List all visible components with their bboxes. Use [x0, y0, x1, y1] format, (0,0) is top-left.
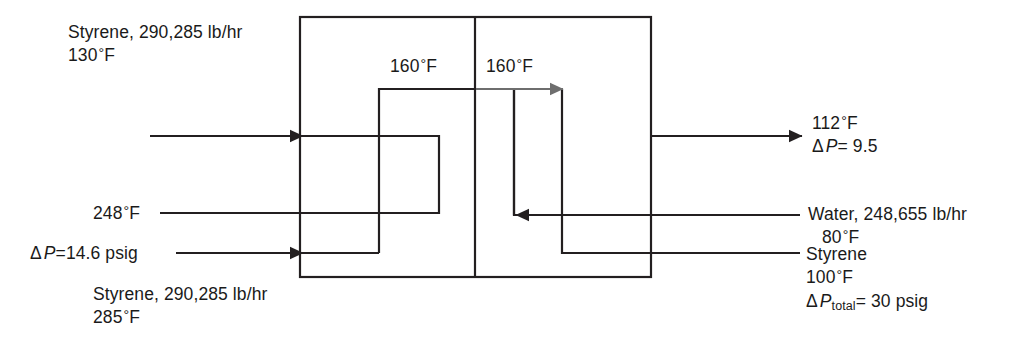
label-inner-right-unit: F [522, 56, 533, 76]
label-inner-right-value: 160 [486, 56, 516, 76]
label-top-right-line2: ΔP= 9.5 [812, 135, 878, 158]
label-styrene-right-var: P [820, 291, 832, 311]
label-bottom-left-line2: 285°F [93, 306, 267, 329]
label-styrene-right-eq: = 30 psig [856, 291, 928, 311]
left-chamber-pipe-lower [300, 136, 439, 213]
label-top-left-stream: Styrene, 290,285 lb/hr 130°F [68, 21, 242, 68]
label-styrene-right-temp-unit: F [842, 267, 853, 287]
label-bottom-left-line1: Styrene, 290,285 lb/hr [93, 283, 267, 306]
label-top-right-temp-unit: F [847, 113, 858, 133]
label-water-line1: Water, 248,655 lb/hr [808, 203, 967, 226]
label-top-left-temp-unit: F [104, 45, 115, 65]
label-mid-left-unit: F [129, 203, 140, 223]
label-inner-left-unit: F [426, 56, 437, 76]
label-styrene-right-line3: ΔPtotal= 30 psig [806, 290, 928, 313]
label-inner-left-temp: 160°F [390, 55, 437, 78]
label-top-right-line1: 112°F [812, 112, 878, 135]
label-styrene-right-line1: Styrene [806, 243, 928, 266]
delta-symbol-icon: Δ [812, 136, 826, 156]
label-top-right-var: P [826, 136, 838, 156]
left-chamber-pipe-upper [379, 89, 475, 253]
label-mid-left-value: 248 [93, 203, 123, 223]
label-styrene-right-stream: Styrene 100°F ΔPtotal= 30 psig [806, 243, 928, 313]
degree-icon: ° [836, 267, 843, 283]
label-top-left-line2: 130°F [68, 44, 242, 67]
label-styrene-right-temp-value: 100 [806, 267, 836, 287]
label-bottom-left-temp-value: 285 [93, 307, 123, 327]
degree-icon: ° [516, 56, 523, 72]
degree-icon: ° [123, 307, 130, 323]
delta-symbol-icon: Δ [806, 291, 820, 311]
label-styrene-right-line2: 100°F [806, 266, 928, 289]
degree-icon: ° [123, 203, 130, 219]
degree-icon: ° [420, 56, 427, 72]
degree-icon: ° [842, 227, 849, 243]
label-lower-left-var: P [44, 243, 56, 263]
label-inner-left-value: 160 [390, 56, 420, 76]
label-inner-right-temp: 160°F [486, 55, 533, 78]
degree-icon: ° [98, 45, 105, 61]
right-chamber-pipe-upper [562, 89, 800, 253]
label-bottom-left-temp-unit: F [129, 307, 140, 327]
label-top-right-temp-value: 112 [812, 113, 840, 133]
label-top-right-outlet: 112°F ΔP= 9.5 [812, 112, 878, 159]
label-bottom-left-stream: Styrene, 290,285 lb/hr 285°F [93, 283, 267, 330]
label-top-left-temp-value: 130 [68, 45, 98, 65]
process-flow-diagram: Styrene, 290,285 lb/hr 130°F 160°F 160°F… [0, 0, 1028, 350]
right-chamber-pipe-lower [514, 89, 800, 215]
label-top-left-line1: Styrene, 290,285 lb/hr [68, 21, 242, 44]
label-mid-left-temp: 248°F [93, 202, 140, 225]
delta-symbol-icon: Δ [30, 243, 44, 263]
degree-icon: ° [840, 113, 847, 129]
label-styrene-right-subscript: total [832, 299, 856, 313]
label-lower-left-delta-p: ΔP=14.6 psig [30, 242, 138, 265]
label-lower-left-eq: =14.6 psig [56, 243, 138, 263]
label-top-right-eq: = 9.5 [838, 136, 878, 156]
